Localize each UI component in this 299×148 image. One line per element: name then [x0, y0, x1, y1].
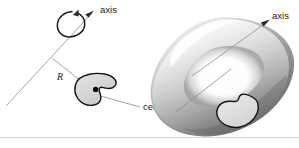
rotation-direction-ellipse	[57, 12, 85, 37]
right-panel-group: axis	[151, 10, 294, 136]
figure-container: R axis centroid	[0, 0, 299, 148]
centroid-leader-line	[97, 95, 140, 107]
radius-label: R	[56, 71, 63, 82]
centroid-dot	[93, 87, 98, 92]
right-axis-label: axis	[272, 10, 289, 21]
rotation-direction-arrowhead	[73, 9, 79, 16]
rotation-axis-arrowhead	[85, 11, 94, 18]
left-axis-label: axis	[100, 4, 117, 15]
figure-svg: R axis centroid	[0, 0, 299, 148]
